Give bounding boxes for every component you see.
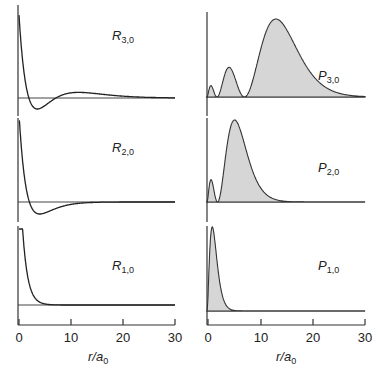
curve-right-top bbox=[207, 19, 365, 97]
tick-label-0: 0 bbox=[204, 330, 211, 345]
label-P10: P1,0 bbox=[318, 258, 339, 275]
label-P20: P2,0 bbox=[318, 160, 339, 177]
curve-right-middle bbox=[207, 120, 365, 202]
tick-label-20: 20 bbox=[116, 330, 130, 345]
curve-left-top bbox=[19, 15, 175, 109]
orbital-figure: 0 10 20 30 r/a0 0 10 20 30 r/a0 R3,0 R2,… bbox=[0, 0, 385, 374]
tick-label-30: 30 bbox=[358, 330, 372, 345]
tick-label-0: 0 bbox=[15, 330, 22, 345]
x-axis-title-right: r/a0 bbox=[276, 349, 296, 366]
label-P30: P3,0 bbox=[318, 68, 339, 85]
tick-label-10: 10 bbox=[64, 330, 78, 345]
tick-label-10: 10 bbox=[254, 330, 268, 345]
label-R20: R2,0 bbox=[112, 140, 134, 157]
tick-label-20: 20 bbox=[306, 330, 320, 345]
tick-label-30: 30 bbox=[168, 330, 182, 345]
x-axis-title-left: r/a0 bbox=[88, 349, 108, 366]
curve-left-bottom bbox=[19, 229, 175, 305]
curve-right-bottom bbox=[207, 227, 365, 311]
label-R10: R1,0 bbox=[112, 258, 134, 275]
label-R30: R3,0 bbox=[112, 28, 134, 45]
x-axis-left: 0 10 20 30 r/a0 bbox=[15, 319, 182, 366]
x-axis-right: 0 10 20 30 r/a0 bbox=[204, 319, 372, 366]
curve-left-middle bbox=[19, 121, 175, 214]
